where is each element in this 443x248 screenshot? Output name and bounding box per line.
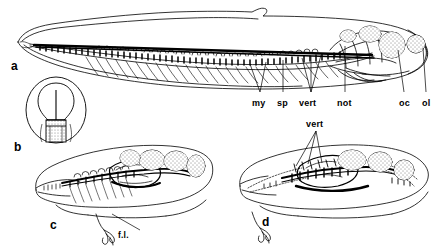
panel-label-d: d bbox=[262, 215, 270, 229]
panel-label-b: b bbox=[14, 140, 22, 154]
annotation-vert-panel-a: vert bbox=[299, 98, 316, 108]
panel-d-leader-lines bbox=[0, 0, 443, 248]
panel-label-c: c bbox=[50, 218, 57, 232]
annotation-not: not bbox=[337, 98, 352, 108]
annotation-my: my bbox=[252, 98, 265, 108]
annotation-vert-panel-d: vert bbox=[306, 119, 323, 129]
panel-label-a: a bbox=[11, 59, 18, 73]
figure-panel-container: a b c d my sp vert not oc ol f.l. vert bbox=[0, 0, 443, 248]
annotation-oc: oc bbox=[399, 98, 410, 108]
annotation-sp: sp bbox=[277, 98, 288, 108]
annotation-fl: f.l. bbox=[118, 230, 129, 240]
annotation-ol: ol bbox=[422, 98, 430, 108]
